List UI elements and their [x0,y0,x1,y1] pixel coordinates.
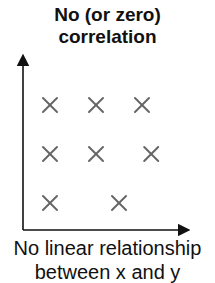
x-marker-icon [89,147,103,161]
data-markers [43,98,158,210]
x-marker-icon [144,147,158,161]
x-marker-icon [89,98,103,112]
x-marker-icon [43,196,57,210]
caption-line-2: between x and y [0,260,215,283]
x-marker-icon [43,147,57,161]
x-marker-icon [135,98,149,112]
x-marker-icon [112,196,126,210]
caption: No linear relationship between x and y [0,236,215,283]
x-marker-icon [43,98,57,112]
caption-line-1: No linear relationship [0,236,215,260]
